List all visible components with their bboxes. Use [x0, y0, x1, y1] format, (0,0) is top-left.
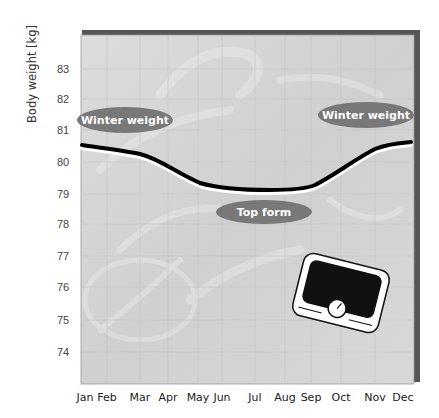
y-tick: 81 [57, 124, 69, 136]
x-tick: Jun [212, 391, 230, 404]
x-tick: Nov [364, 391, 386, 404]
x-tick: Feb [97, 391, 116, 404]
x-axis-ticks: Jan Feb Mar Apr May Jun Jul Aug Sep Oct … [76, 391, 414, 404]
x-tick: Jan [76, 391, 94, 404]
y-axis-label: Body weight [kg] [25, 25, 39, 123]
y-axis-ticks: 83 82 81 80 79 78 77 76 75 74 [57, 63, 69, 358]
x-tick: Jul [247, 391, 261, 404]
body-weight-chart: Winter weight Winter weight Top form Bod… [0, 0, 439, 418]
winter-weight-left-label: Winter weight [81, 114, 169, 127]
y-tick: 74 [57, 346, 69, 358]
x-tick: Aug [274, 391, 295, 404]
y-tick: 77 [57, 250, 69, 262]
winter-weight-right-label: Winter weight [322, 109, 410, 122]
x-tick: Dec [392, 391, 413, 404]
x-tick: Mar [130, 391, 151, 404]
y-tick: 79 [57, 188, 69, 200]
y-tick: 82 [57, 93, 69, 105]
annotation-winter-right: Winter weight [318, 102, 414, 128]
y-tick: 75 [57, 314, 69, 326]
y-tick: 80 [57, 156, 69, 168]
y-tick: 76 [57, 281, 69, 293]
y-tick: 78 [57, 218, 69, 230]
annotation-winter-left: Winter weight [77, 107, 173, 133]
x-tick: May [187, 391, 210, 404]
y-tick: 83 [57, 63, 69, 75]
top-form-label: Top form [237, 206, 292, 219]
x-tick: Oct [331, 391, 351, 404]
annotation-top-form: Top form [216, 200, 312, 224]
x-tick: Apr [158, 391, 178, 404]
x-tick: Sep [301, 391, 322, 404]
